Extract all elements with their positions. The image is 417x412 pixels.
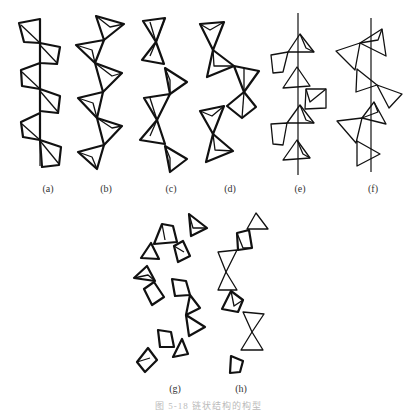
- chain-e: [271, 13, 326, 175]
- panel-label-g: (g): [169, 383, 181, 394]
- chain-structures-figure: [0, 0, 417, 412]
- chain-b: [76, 16, 124, 169]
- panel-label-e: (e): [294, 183, 305, 194]
- chain-a: [19, 19, 61, 167]
- figure-caption: 图 5-18 链状结构的构型: [0, 399, 417, 412]
- panel-label-f: (f): [368, 183, 378, 194]
- panel-label-b: (b): [100, 183, 112, 194]
- chain-c: [140, 18, 187, 172]
- panel-label-c: (c): [165, 183, 176, 194]
- panel-label-h: (h): [235, 383, 247, 394]
- panel-label-d: (d): [224, 183, 236, 194]
- chain-d: [200, 22, 259, 162]
- panel-label-a: (a): [42, 183, 53, 194]
- chain-g: [134, 214, 207, 372]
- chain-f: [336, 18, 402, 172]
- chain-h: [218, 213, 268, 373]
